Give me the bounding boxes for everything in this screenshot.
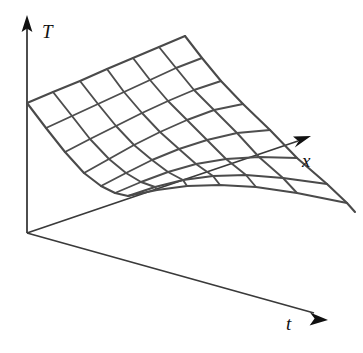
mesh-line-v-5 (159, 47, 297, 193)
t-axis-label: t (286, 313, 292, 334)
t-temperature-axis (22, 15, 33, 233)
surface-mesh (27, 36, 355, 212)
T-axis-label: T (42, 21, 54, 42)
plot-canvas: T x t (0, 0, 363, 353)
mesh-line-u-5 (115, 157, 297, 193)
t-axis-line (27, 233, 314, 313)
t-time-axis (27, 233, 328, 326)
mesh-line-v-0-left-edge (27, 103, 128, 196)
arrow-down-right-icon (310, 312, 328, 325)
x-axis-label: x (301, 150, 311, 171)
surface-plot-figure: T x t (0, 0, 363, 353)
